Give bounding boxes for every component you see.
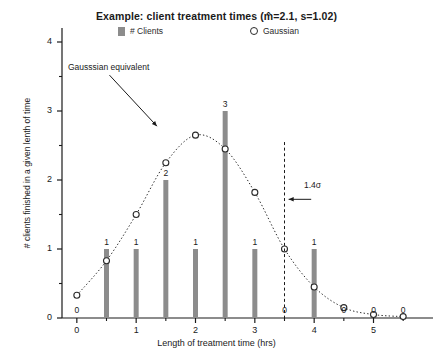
x-tick-label: 0: [69, 325, 85, 335]
gaussian-marker: [193, 132, 199, 138]
chart-figure: Example: client treatment times (m̂=2.1,…: [0, 0, 433, 364]
y-tick-label: 1: [36, 243, 52, 253]
x-tick-label: 1: [128, 325, 144, 335]
bar-value-label: 1: [248, 237, 262, 247]
bar: [134, 249, 139, 318]
bar-value-label: 1: [189, 237, 203, 247]
bar: [252, 249, 257, 318]
x-tick-label: 4: [306, 325, 322, 335]
gaussian-marker: [133, 212, 139, 218]
gaussian-zero-label: 0: [70, 305, 84, 315]
x-tick-label: 3: [247, 325, 263, 335]
bar-value-label: 1: [100, 237, 114, 247]
gaussian-marker: [104, 258, 110, 264]
gaussian-marker: [163, 160, 169, 166]
gaussian-marker: [311, 284, 317, 290]
gaussian-marker: [74, 292, 80, 298]
bar-value-label: 3: [218, 99, 232, 109]
y-tick-label: 4: [36, 36, 52, 46]
bar-value-label: 2: [159, 168, 173, 178]
gaussian-marker: [252, 189, 258, 195]
bar-value-label: 1: [129, 237, 143, 247]
gaussian-annotation-arrow: [109, 75, 156, 126]
gaussian-curve: [77, 135, 403, 317]
x-tick-label: 2: [188, 325, 204, 335]
bar-value-label: 1: [307, 237, 321, 247]
y-tick-label: 0: [36, 312, 52, 322]
gaussian-zero-label: 0: [278, 305, 292, 315]
sigma-annotation-arrow-head: [289, 197, 294, 201]
gaussian-zero-label: 0: [396, 305, 410, 315]
y-tick-label: 2: [36, 174, 52, 184]
y-tick-label: 3: [36, 105, 52, 115]
bar: [223, 111, 228, 318]
bar: [163, 180, 168, 318]
x-tick-label: 5: [366, 325, 382, 335]
gaussian-zero-label: 0: [367, 305, 381, 315]
gaussian-marker: [222, 146, 228, 152]
gaussian-zero-label: 0: [337, 305, 351, 315]
bar: [193, 249, 198, 318]
